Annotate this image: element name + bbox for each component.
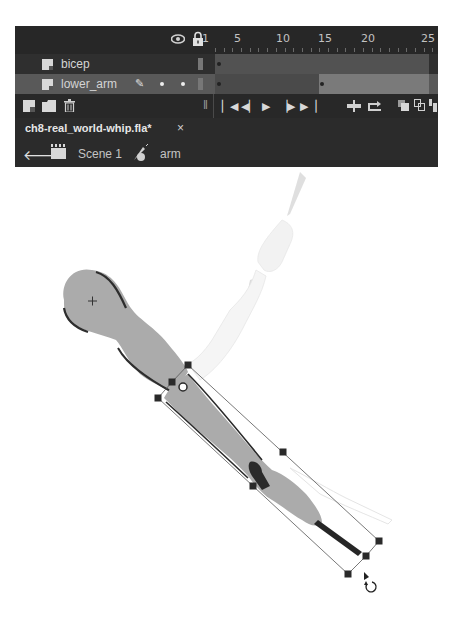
- bicep-symbol[interactable]: [63, 269, 188, 392]
- lower-arm-symbol[interactable]: [164, 374, 362, 556]
- transform-handle[interactable]: [185, 362, 192, 369]
- transform-handle[interactable]: [280, 449, 287, 456]
- transform-handle[interactable]: [376, 538, 383, 545]
- onion-skin-ghost: [188, 172, 392, 524]
- stage-canvas[interactable]: [0, 167, 459, 621]
- transformation-point[interactable]: [179, 383, 187, 391]
- transform-handle[interactable]: [250, 483, 257, 490]
- rotate-cursor-icon: [364, 572, 376, 592]
- transform-handle[interactable]: [169, 379, 176, 386]
- transform-handle[interactable]: [363, 553, 370, 560]
- transform-handle[interactable]: [155, 395, 162, 402]
- transform-handle[interactable]: [345, 571, 352, 578]
- stage-artwork: [0, 0, 459, 621]
